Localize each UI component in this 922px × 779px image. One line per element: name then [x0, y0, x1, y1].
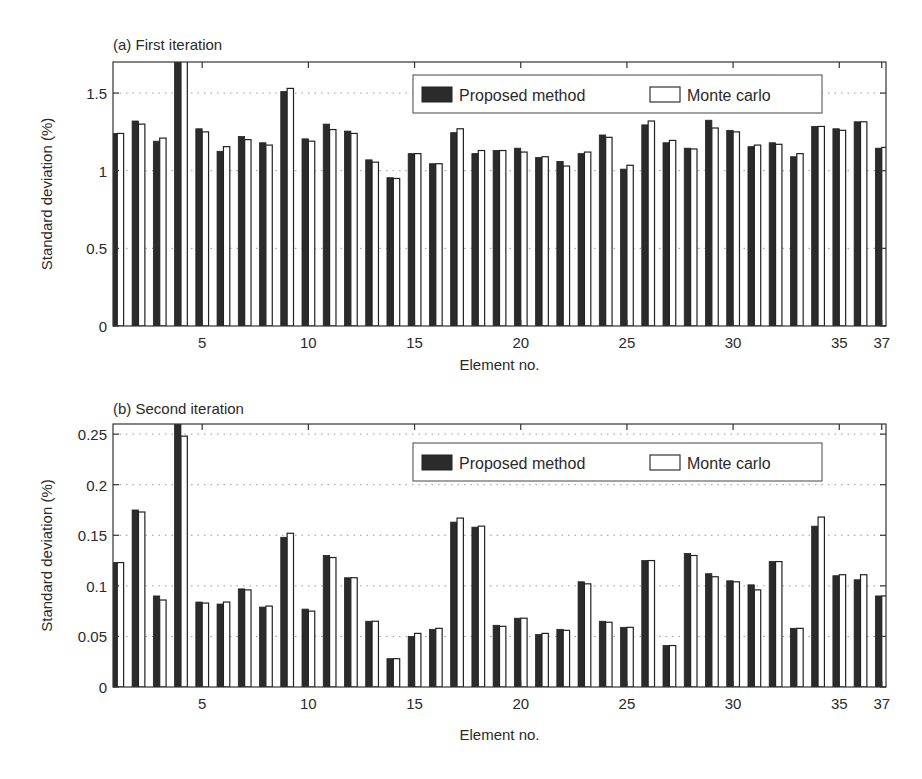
y-tick-label: 0.05 [78, 628, 107, 645]
legend-swatch-proposed-a [422, 87, 452, 102]
chart-panel-b: (b) Second iteration 00.050.10.150.20.25… [38, 400, 890, 743]
bar-proposed [153, 141, 159, 326]
bar-proposed [260, 143, 266, 326]
y-tick-label: 1 [99, 163, 107, 180]
bar-proposed [557, 629, 563, 687]
bar-proposed [153, 596, 159, 687]
bar-montecarlo [776, 562, 782, 687]
bar-montecarlo [627, 165, 633, 326]
bar-montecarlo [266, 145, 272, 326]
y-tick-label: 0.1 [86, 578, 107, 595]
bar-proposed [408, 636, 414, 687]
bar-montecarlo [776, 144, 782, 326]
bar-montecarlo [415, 154, 421, 326]
legend-swatch-montecarlo-b [650, 455, 680, 470]
bar-proposed [790, 157, 796, 326]
bar-proposed [684, 553, 690, 687]
bar-proposed [536, 158, 542, 326]
bar-proposed [344, 578, 350, 687]
bar-montecarlo [351, 578, 357, 687]
bar-proposed [451, 522, 457, 687]
y-axis-label-a: Standard deviation (%) [38, 118, 55, 271]
bar-montecarlo [691, 556, 697, 688]
bar-proposed [366, 160, 372, 326]
bar-proposed [790, 628, 796, 687]
bar-proposed [260, 607, 266, 687]
chart-title-b: (b) Second iteration [113, 400, 244, 417]
bar-proposed [196, 129, 202, 326]
bar-montecarlo [372, 621, 378, 687]
x-tick-label: 37 [873, 334, 890, 351]
bar-montecarlo [584, 152, 590, 326]
bar-montecarlo [372, 162, 378, 326]
bar-proposed [727, 581, 733, 687]
bar-proposed [302, 609, 308, 687]
bar-proposed [429, 629, 435, 687]
bar-proposed [217, 151, 223, 326]
bar-proposed [854, 122, 860, 326]
bar-proposed [705, 120, 711, 326]
bar-montecarlo [202, 132, 208, 326]
bar-montecarlo [393, 178, 399, 326]
bar-proposed [705, 574, 711, 687]
bar-proposed [727, 130, 733, 326]
bar-montecarlo [500, 151, 506, 326]
bar-montecarlo [882, 147, 888, 326]
x-tick-label: 25 [619, 695, 636, 712]
bar-montecarlo [393, 659, 399, 687]
bar-montecarlo [606, 622, 612, 687]
x-tick-label: 20 [512, 334, 529, 351]
bar-proposed [812, 126, 818, 326]
bar-montecarlo [733, 132, 739, 326]
bar-montecarlo [223, 602, 229, 687]
bar-montecarlo [712, 128, 718, 326]
chart-title-a: (a) First iteration [113, 36, 222, 53]
bar-proposed [748, 147, 754, 326]
y-tick-label: 0.15 [78, 527, 107, 544]
x-tick-label: 15 [406, 334, 423, 351]
x-tick-label: 35 [831, 334, 848, 351]
bar-montecarlo [839, 575, 845, 687]
bar-proposed [557, 161, 563, 326]
bar-proposed [302, 139, 308, 326]
bar-proposed [642, 125, 648, 326]
x-tick-label: 5 [198, 334, 206, 351]
figure: (a) First iteration 00.511.5510152025303… [0, 0, 922, 779]
bar-proposed [812, 526, 818, 687]
bar-montecarlo [500, 626, 506, 687]
bar-proposed [621, 627, 627, 687]
bar-montecarlo [478, 151, 484, 326]
bar-montecarlo [160, 600, 166, 687]
x-tick-label: 15 [406, 695, 423, 712]
x-axis-label-b: Element no. [459, 726, 539, 743]
bar-montecarlo [521, 618, 527, 687]
bar-montecarlo [457, 518, 463, 687]
bar-proposed [238, 589, 244, 687]
bar-proposed [769, 562, 775, 687]
bar-proposed [536, 634, 542, 687]
bar-proposed [281, 537, 287, 687]
bar-montecarlo [245, 590, 251, 687]
bar-proposed [175, 419, 181, 687]
bar-proposed [578, 154, 584, 326]
bar-proposed [684, 148, 690, 326]
bar-montecarlo [138, 512, 144, 687]
bar-proposed [472, 154, 478, 326]
bar-montecarlo [669, 646, 675, 687]
legend-label-proposed-b: Proposed method [459, 455, 585, 472]
bar-proposed [748, 585, 754, 687]
bar-proposed [429, 164, 435, 326]
bar-montecarlo [648, 561, 654, 687]
bar-montecarlo [436, 164, 442, 326]
y-tick-label: 0.5 [86, 240, 107, 257]
x-tick-label: 5 [198, 695, 206, 712]
bar-montecarlo [606, 137, 612, 326]
bar-proposed [833, 576, 839, 687]
bar-montecarlo [818, 126, 824, 326]
bar-proposed [642, 561, 648, 687]
legend-label-montecarlo-b: Monte carlo [687, 455, 771, 472]
bar-montecarlo [861, 575, 867, 687]
bar-proposed [132, 121, 138, 326]
bar-montecarlo [563, 166, 569, 326]
y-axis-label-b: Standard deviation (%) [38, 479, 55, 632]
